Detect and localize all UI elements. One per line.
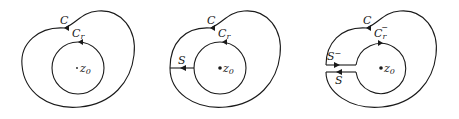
center-dot bbox=[379, 66, 383, 70]
label-z0: z0 bbox=[222, 62, 234, 76]
panel-3: C Cr− S− S z0 bbox=[326, 11, 436, 107]
outer-contour-c bbox=[22, 11, 135, 107]
label-c: C bbox=[60, 14, 69, 27]
inner-circle-cr bbox=[52, 42, 104, 94]
contour-diagram: C Cr z0 C Cr S z0 C Cr− S− S z0 bbox=[0, 0, 459, 119]
label-z0: z0 bbox=[79, 62, 91, 76]
label-cr: Cr bbox=[218, 27, 231, 41]
outer-contour-c bbox=[170, 11, 280, 107]
label-c: C bbox=[363, 14, 372, 27]
panel-1: C Cr z0 bbox=[22, 11, 135, 107]
label-c: C bbox=[207, 14, 216, 27]
label-s: S bbox=[335, 74, 343, 87]
label-cr-minus: Cr− bbox=[374, 23, 388, 41]
panel-2: C Cr S z0 bbox=[170, 11, 280, 107]
center-dot bbox=[76, 67, 78, 69]
label-z0: z0 bbox=[383, 62, 395, 76]
label-s: S bbox=[178, 54, 186, 67]
arrow-s-minus-icon bbox=[334, 62, 340, 68]
label-cr: Cr bbox=[72, 27, 85, 41]
center-dot bbox=[218, 66, 222, 70]
label-s-minus: S− bbox=[327, 49, 341, 63]
